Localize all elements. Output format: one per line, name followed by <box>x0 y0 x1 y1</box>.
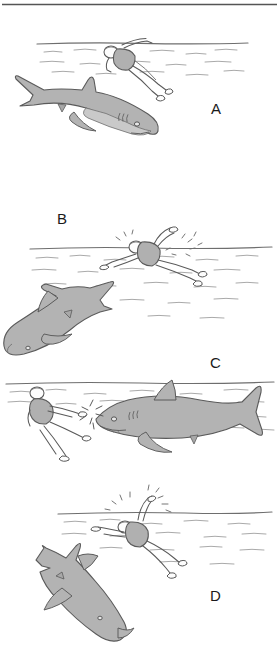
swimmer-swimsuit <box>138 242 161 266</box>
shark-eye <box>98 616 102 620</box>
shark-eye <box>111 417 116 421</box>
swimmer-swimsuit <box>126 522 149 547</box>
shark-encounter-figure: A <box>0 0 279 648</box>
swimmer-foot-front <box>82 436 91 441</box>
swimmer-foot-upper <box>178 560 187 566</box>
panel-label-d: D <box>210 587 221 604</box>
swimmer-hand-forward <box>100 265 109 270</box>
swimmer-swimsuit <box>113 49 135 70</box>
swimmer-foot-rear <box>59 456 69 461</box>
swimmer-foot-lower <box>156 95 165 101</box>
panel-label-c: C <box>210 354 221 371</box>
panel-label-a: A <box>211 100 221 117</box>
swimmer-foot-upper <box>165 89 173 94</box>
swimmer-foot-upper <box>198 271 207 277</box>
swimmer-head <box>30 387 44 399</box>
swimmer-hand-raised <box>169 227 178 232</box>
swimmer-hand-forward <box>91 527 101 531</box>
shark-eye <box>26 346 30 350</box>
shark-eye <box>134 122 139 126</box>
panel-label-b: B <box>57 210 67 227</box>
